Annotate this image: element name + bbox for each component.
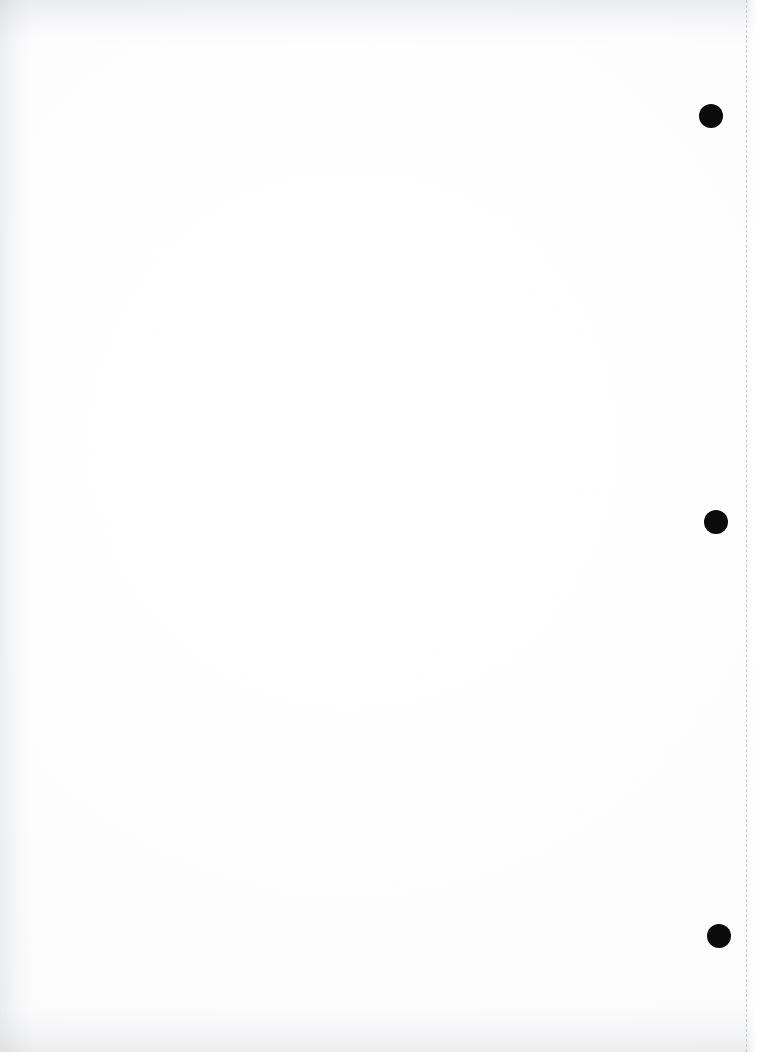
top-edge-shadow — [0, 0, 763, 46]
perforation-dashed-line — [746, 0, 747, 1052]
left-edge-shadow — [0, 0, 34, 1052]
scanned-document-page — [0, 0, 763, 1052]
right-edge-highlight — [747, 0, 763, 1052]
bottom-edge-shadow — [0, 994, 763, 1052]
punch-hole-3 — [707, 924, 731, 948]
punch-hole-1 — [699, 104, 723, 128]
punch-hole-2 — [704, 510, 728, 534]
paper-grain-texture — [0, 0, 763, 1052]
